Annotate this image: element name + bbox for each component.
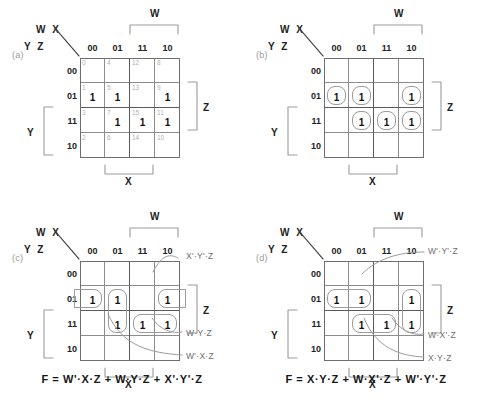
cell-value-one: 1 <box>155 295 180 306</box>
kmap-cell-r11-c10[interactable]: 1 <box>399 108 424 133</box>
kmap-cell-r11-c01[interactable]: 1 <box>105 311 130 336</box>
bracket-label-w: W <box>394 8 403 19</box>
kmap-cell-r01-c00[interactable]: 1 <box>80 286 105 311</box>
column-label-01: 01 <box>349 246 374 256</box>
row-label-01: 01 <box>55 294 77 304</box>
kmap-cell-r01-c11[interactable] <box>374 286 399 311</box>
kmap-cell-r01-c01[interactable]: 1 <box>349 83 374 108</box>
kmap-cell-r11-c10[interactable]: 1 <box>399 311 424 336</box>
kmap-cell-r01-c00[interactable]: 1 <box>324 83 349 108</box>
minterm-index: 1 <box>82 84 86 91</box>
column-label-11: 11 <box>130 43 155 53</box>
kmap-cell-r01-c01[interactable]: 51 <box>105 83 130 108</box>
kmap-panel-b: (b)W XY Z0001111000011110111111WXZY <box>244 0 488 203</box>
kmap-cell-r10-c11[interactable]: 14 <box>130 133 155 158</box>
bracket-label-w: W <box>394 211 403 222</box>
kmap-cell-r00-c01[interactable] <box>105 261 130 286</box>
kmap-cell-r00-c10[interactable] <box>399 58 424 83</box>
kmap-cell-r00-c11[interactable] <box>374 261 399 286</box>
kmap-cell-r01-c11[interactable]: 13 <box>130 83 155 108</box>
kmap-cell-r10-c01[interactable]: 6 <box>105 133 130 158</box>
kmap-cell-r00-c01[interactable] <box>349 58 374 83</box>
kmap-cell-r10-c00[interactable] <box>324 336 349 361</box>
kmap-cell-r10-c11[interactable] <box>374 336 399 361</box>
kmap-cell-r00-c10[interactable] <box>399 261 424 286</box>
kmap-cell-r01-c10[interactable]: 1 <box>399 83 424 108</box>
kmap-cell-r10-c00[interactable] <box>324 133 349 158</box>
column-label-11: 11 <box>374 43 399 53</box>
row-label-01: 01 <box>299 91 321 101</box>
bracket-y <box>285 106 299 162</box>
bracket-z <box>431 81 445 137</box>
kmap-cell-r01-c11[interactable] <box>130 286 155 311</box>
boolean-equation: F = X·Y·Z + W·X'·Z + W'·Y'·Z <box>244 373 488 385</box>
kmap-cell-r11-c10[interactable]: 111 <box>155 108 180 133</box>
kmap-cell-r11-c00[interactable] <box>324 108 349 133</box>
annotation-x-y-z: X·Y·Z <box>428 353 452 363</box>
column-label-00: 00 <box>80 246 105 256</box>
kmap-cell-r00-c01[interactable]: 4 <box>105 58 130 83</box>
kmap-cell-r00-c00[interactable] <box>324 58 349 83</box>
kmap-cell-r10-c01[interactable] <box>105 336 130 361</box>
kmap-cell-r00-c11[interactable] <box>130 261 155 286</box>
cell-value-one: 1 <box>399 92 424 103</box>
row-label-11: 11 <box>55 319 77 329</box>
kmap-cell-r00-c11[interactable]: 12 <box>130 58 155 83</box>
panel-label: (b) <box>256 50 268 60</box>
kmap-cell-r01-c00[interactable]: 1 <box>324 286 349 311</box>
kmap-cell-r10-c10[interactable] <box>399 133 424 158</box>
kmap-cell-r00-c10[interactable] <box>155 261 180 286</box>
kmap-cell-r00-c01[interactable] <box>349 261 374 286</box>
kmap-cell-r00-c10[interactable]: 8 <box>155 58 180 83</box>
kmap-cell-r11-c01[interactable]: 71 <box>105 108 130 133</box>
kmap-cell-r00-c00[interactable] <box>80 261 105 286</box>
kmap-cell-r01-c01[interactable]: 1 <box>105 286 130 311</box>
kmap-cell-r01-c00[interactable]: 11 <box>80 83 105 108</box>
column-label-11: 11 <box>130 246 155 256</box>
kmap-panel-a: (a)W XY Z0001111000011110041281151139137… <box>0 0 244 203</box>
kmap-cell-r00-c00[interactable] <box>324 261 349 286</box>
kmap-cell-r11-c00[interactable] <box>80 311 105 336</box>
kmap-cell-r11-c01[interactable]: 1 <box>349 108 374 133</box>
kmap-cell-r01-c10[interactable]: 1 <box>399 286 424 311</box>
kmap-cell-r11-c10[interactable]: 1 <box>155 311 180 336</box>
row-label-11: 11 <box>299 116 321 126</box>
column-label-10: 10 <box>399 43 424 53</box>
kmap-cell-r10-c00[interactable] <box>80 336 105 361</box>
cell-value-one: 1 <box>155 320 180 331</box>
annotation-wprime-yprime-z: W'·Y'·Z <box>428 246 458 256</box>
panel-label: (d) <box>256 253 268 263</box>
kmap-cell-r11-c11[interactable]: 151 <box>130 108 155 133</box>
kmap-cell-r10-c10[interactable] <box>399 336 424 361</box>
kmap-cell-r10-c01[interactable] <box>349 336 374 361</box>
kmap-cell-r10-c01[interactable] <box>349 133 374 158</box>
bracket-label-z: Z <box>203 305 209 316</box>
kmap-cell-r00-c11[interactable] <box>374 58 399 83</box>
kmap-cell-r11-c11[interactable]: 1 <box>374 108 399 133</box>
kmap-cell-r10-c10[interactable] <box>155 336 180 361</box>
bracket-label-x: X <box>369 176 376 187</box>
header-row-vars: Y Z <box>24 41 45 52</box>
kmap-cell-r11-c01[interactable]: 1 <box>349 311 374 336</box>
kmap-cell-r01-c10[interactable]: 91 <box>155 83 180 108</box>
kmap-cell-r10-c11[interactable] <box>374 133 399 158</box>
kmap-cell-r11-c11[interactable]: 1 <box>130 311 155 336</box>
kmap-cell-r11-c00[interactable] <box>324 311 349 336</box>
kmap-cell-r01-c01[interactable]: 1 <box>349 286 374 311</box>
kmap-cell-r10-c10[interactable]: 10 <box>155 133 180 158</box>
kmap-grid: 111111 <box>324 261 424 361</box>
kmap-cell-r10-c11[interactable] <box>130 336 155 361</box>
kmap-cell-r10-c00[interactable]: 2 <box>80 133 105 158</box>
header-col-vars: W X <box>36 24 61 35</box>
minterm-index: 5 <box>107 84 111 91</box>
bracket-w <box>129 22 185 36</box>
kmap-panel-d: (d)W XY Z0001111000011110111111WXZYF = X… <box>244 203 488 406</box>
kmap-cell-r11-c11[interactable]: 1 <box>374 311 399 336</box>
bracket-w <box>373 22 429 36</box>
kmap-cell-r11-c00[interactable]: 3 <box>80 108 105 133</box>
column-label-00: 00 <box>80 43 105 53</box>
kmap-cell-r00-c00[interactable]: 0 <box>80 58 105 83</box>
kmap-cell-r01-c11[interactable] <box>374 83 399 108</box>
kmap-cell-r01-c10[interactable]: 1 <box>155 286 180 311</box>
header-col-vars: W X <box>280 24 305 35</box>
